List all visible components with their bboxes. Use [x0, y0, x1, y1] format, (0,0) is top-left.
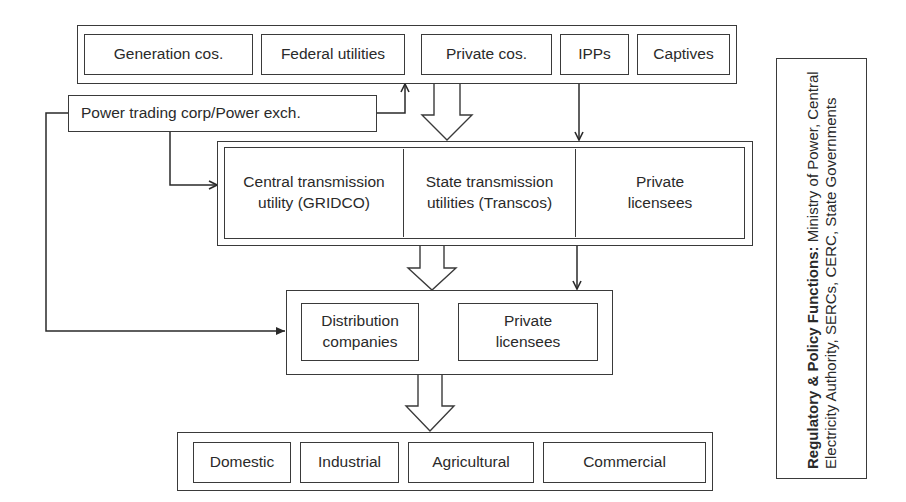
- trading-to-generation-arrow: [376, 84, 405, 113]
- distribution-companies-box: Distribution companies: [301, 303, 419, 361]
- private-distribution-line1: Private: [504, 311, 552, 332]
- state-transmission-utilities: State transmission utilities (Transcos): [403, 149, 576, 237]
- regulatory-title: Regulatory & Policy Functions:: [804, 242, 821, 469]
- commercial-box: Commercial: [543, 442, 706, 483]
- distribution-companies-line1: Distribution: [321, 311, 399, 332]
- power-trading-box: Power trading corp/Power exch.: [68, 95, 377, 132]
- private-transmission-line2: licensees: [628, 193, 693, 214]
- regulatory-policy-box: Regulatory & Policy Functions: Ministry …: [776, 58, 867, 479]
- captives-box: Captives: [637, 34, 730, 75]
- distribution-to-consumers-block-arrow: [406, 374, 454, 431]
- transmission-to-distribution-block-arrow: [408, 245, 456, 290]
- regulatory-policy-text: Regulatory & Policy Functions: Ministry …: [804, 69, 840, 469]
- central-transmission-utility: Central transmission utility (GRIDCO): [226, 149, 402, 237]
- state-transmission-line1: State transmission: [426, 172, 554, 193]
- private-transmission-line1: Private: [636, 172, 684, 193]
- private-distribution-licensees-box: Private licensees: [458, 303, 598, 361]
- central-transmission-line2: utility (GRIDCO): [258, 193, 370, 214]
- central-transmission-line1: Central transmission: [243, 172, 384, 193]
- domestic-box: Domestic: [193, 442, 291, 483]
- generation-to-transmission-block-arrow: [422, 83, 472, 140]
- industrial-box: Industrial: [300, 442, 399, 483]
- trading-to-transmission-arrow: [170, 131, 217, 185]
- distribution-companies-line2: companies: [323, 332, 398, 353]
- agricultural-box: Agricultural: [408, 442, 534, 483]
- generation-cos-box: Generation cos.: [84, 34, 253, 75]
- ipps-box: IPPs: [560, 34, 629, 75]
- state-transmission-line2: utilities (Transcos): [427, 193, 552, 214]
- private-transmission-licensees: Private licensees: [577, 149, 743, 237]
- federal-utilities-box: Federal utilities: [261, 34, 405, 75]
- private-distribution-line2: licensees: [496, 332, 561, 353]
- private-cos-box: Private cos.: [421, 34, 552, 75]
